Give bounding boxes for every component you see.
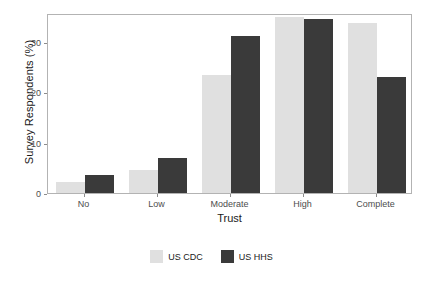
y-tick-mark [44, 144, 47, 145]
legend-swatch-icon [150, 250, 163, 263]
bar-us-hhs-high[interactable] [304, 19, 333, 193]
legend-item-us-cdc[interactable]: US CDC [150, 250, 203, 263]
bar-us-hhs-moderate[interactable] [231, 36, 260, 193]
x-tick-label-high: High [293, 199, 312, 209]
x-tick-mark [303, 194, 304, 197]
x-tick-label-no: No [78, 199, 90, 209]
x-tick-mark [376, 194, 377, 197]
y-tick-label: 20 [22, 88, 44, 98]
bar-group [129, 15, 187, 193]
bar-us-hhs-no[interactable] [85, 175, 114, 193]
x-tick-label-moderate: Moderate [210, 199, 248, 209]
y-tick-mark [44, 43, 47, 44]
y-axis-ticks: 0102030 [22, 0, 44, 283]
bar-us-cdc-moderate[interactable] [202, 75, 231, 193]
bar-us-hhs-complete[interactable] [377, 77, 406, 193]
bar-chart-figure: Survey Respondents (%) 0102030 NoLowMode… [0, 0, 423, 283]
y-tick-label: 10 [22, 139, 44, 149]
legend-label: US CDC [168, 252, 203, 262]
plot-panel [47, 14, 412, 194]
y-tick-label: 30 [22, 38, 44, 48]
y-tick-mark [44, 194, 47, 195]
x-tick-label-complete: Complete [356, 199, 395, 209]
x-tick-mark [157, 194, 158, 197]
bar-us-hhs-low[interactable] [158, 158, 187, 193]
x-tick-label-low: Low [148, 199, 165, 209]
legend-label: US HHS [239, 252, 273, 262]
bars-layer [48, 15, 411, 193]
x-tick-mark [84, 194, 85, 197]
bar-us-cdc-no[interactable] [56, 182, 85, 193]
bar-us-cdc-low[interactable] [129, 170, 158, 193]
legend-swatch-icon [221, 250, 234, 263]
bar-us-cdc-high[interactable] [275, 17, 304, 193]
y-tick-label: 0 [22, 189, 44, 199]
legend-item-us-hhs[interactable]: US HHS [221, 250, 273, 263]
x-axis-title: Trust [47, 212, 412, 224]
x-tick-mark [230, 194, 231, 197]
chart-legend: US CDCUS HHS [0, 250, 423, 263]
bar-group [275, 15, 333, 193]
bar-group [56, 15, 114, 193]
bar-group [348, 15, 406, 193]
y-tick-mark [44, 93, 47, 94]
bar-us-cdc-complete[interactable] [348, 23, 377, 193]
bar-group [202, 15, 260, 193]
